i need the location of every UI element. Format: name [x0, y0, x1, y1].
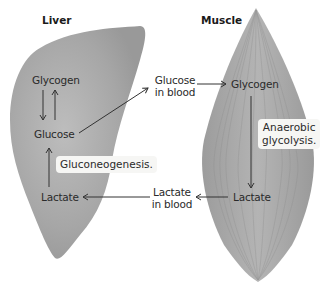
liver-lactate-label: Lactate	[41, 191, 79, 203]
glucose-in-blood-line2: in blood	[153, 86, 197, 98]
liver-glycogen-label: Glycogen	[32, 74, 80, 86]
liver-title: Liver	[42, 14, 71, 26]
cori-cycle-diagram: Liver Muscle Glycogen Glucose Lactate Gl…	[0, 0, 324, 289]
glucose-in-blood-line1: Glucose	[153, 74, 197, 86]
anaerobic-glycolysis-label: Anaerobic glycolysis.	[258, 119, 320, 149]
anaerobic-line2: glycolysis.	[262, 134, 316, 147]
lactate-in-blood-label: Lactate in blood	[150, 186, 194, 210]
lactate-in-blood-line1: Lactate	[150, 186, 194, 198]
anaerobic-line1: Anaerobic	[262, 121, 316, 134]
glucose-in-blood-label: Glucose in blood	[153, 74, 197, 98]
muscle-title: Muscle	[201, 14, 242, 26]
muscle-glycogen-label: Glycogen	[231, 78, 279, 90]
lactate-in-blood-line2: in blood	[150, 198, 194, 210]
liver-shape	[10, 26, 145, 259]
gluconeogenesis-label: Gluconeogenesis.	[56, 156, 157, 173]
muscle-lactate-label: Lactate	[233, 191, 271, 203]
liver-glucose-label: Glucose	[34, 128, 74, 140]
